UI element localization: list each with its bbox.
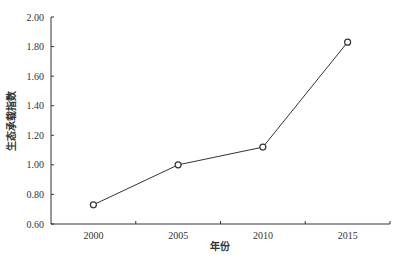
x-axis-title: 年份 (210, 240, 231, 252)
data-point-marker (345, 39, 351, 45)
y-tick-label: 1.20 (27, 130, 45, 141)
y-tick-label: 1.00 (27, 159, 45, 170)
x-tick-label: 2000 (83, 230, 103, 241)
data-series (90, 39, 350, 208)
data-point-marker (260, 144, 266, 150)
data-point-marker (90, 202, 96, 208)
y-tick-label: 0.80 (27, 189, 45, 200)
y-tick-label: 1.40 (27, 100, 45, 111)
y-tick-label: 0.60 (27, 219, 45, 230)
y-axis-title: 生态承载指数 (5, 90, 17, 151)
y-tick-label: 1.60 (27, 71, 45, 82)
data-point-marker (175, 162, 181, 168)
line-chart: 0.600.801.001.201.401.601.802.00 2000200… (0, 0, 398, 267)
x-tick-label: 2015 (338, 230, 358, 241)
x-tick-label: 2005 (168, 230, 188, 241)
y-axis: 0.600.801.001.201.401.601.802.00 (27, 12, 55, 230)
y-tick-label: 1.80 (27, 41, 45, 52)
series-line (93, 42, 347, 205)
x-tick-label: 2010 (253, 230, 273, 241)
y-tick-label: 2.00 (27, 12, 45, 23)
x-axis: 2000200520102015 (51, 221, 390, 241)
